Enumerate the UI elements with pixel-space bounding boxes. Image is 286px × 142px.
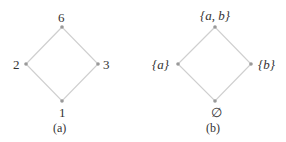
node-label-6: 6 [58, 11, 65, 24]
node-label-a: {a} [152, 58, 169, 71]
diagram-a-nodes [24, 25, 100, 103]
node-label-3: 3 [103, 58, 110, 71]
node-label-empty-set: ∅ [211, 106, 222, 119]
caption-b: (b) [206, 122, 220, 135]
node-label-1: 1 [59, 106, 66, 119]
caption-a: (a) [53, 122, 66, 135]
diagram-b-nodes [176, 25, 253, 103]
hasse-diagrams-canvas [0, 0, 286, 142]
node-label-2: 2 [13, 58, 20, 71]
diagram-a-edges [26, 27, 98, 101]
node-label-ab: {a, b} [200, 9, 230, 22]
diagram-b-edges [178, 27, 251, 101]
node-label-b: {b} [258, 58, 275, 71]
